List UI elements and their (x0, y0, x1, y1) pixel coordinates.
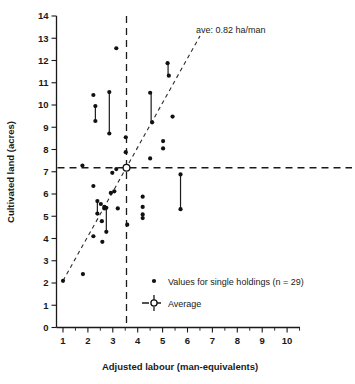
x-tick-label: 8 (235, 335, 240, 346)
average-circle-marker (123, 164, 130, 171)
x-tick-label: 7 (210, 335, 215, 346)
data-point (161, 139, 165, 143)
data-point (178, 172, 182, 176)
x-tick-label: 10 (282, 335, 293, 346)
data-point (99, 202, 103, 206)
x-tick-label: 5 (160, 335, 166, 346)
y-tick-label: 9 (43, 122, 48, 133)
data-point (141, 195, 145, 199)
x-tick-label: 2 (85, 335, 90, 346)
legend-label-values: Values for single holdings (n = 29) (168, 277, 304, 287)
data-point (124, 150, 128, 154)
data-point (81, 272, 85, 276)
x-axis-ticks: 12345678910 (60, 328, 299, 346)
x-tick-label: 9 (260, 335, 265, 346)
data-point (91, 184, 95, 188)
data-point (104, 206, 108, 210)
y-tick-label: 7 (43, 166, 48, 177)
legend-dot-icon (152, 279, 156, 283)
y-tick-label: 12 (38, 55, 49, 66)
y-axis-ticks: 01234567891011121314 (38, 10, 57, 333)
legend-avg-circle-icon (151, 300, 157, 306)
data-point (141, 216, 145, 220)
data-point (170, 114, 174, 118)
x-tick-label: 4 (135, 335, 141, 346)
data-point (167, 74, 171, 78)
x-tick-label: 3 (110, 335, 115, 346)
data-point (125, 223, 129, 227)
x-axis-title: Adjusted labour (man-equivalents) (102, 361, 258, 372)
data-point (93, 119, 97, 123)
data-point (104, 230, 108, 234)
y-tick-label: 0 (43, 322, 48, 333)
data-point (141, 205, 145, 209)
y-tick-label: 4 (43, 233, 49, 244)
data-point (100, 219, 104, 223)
y-tick-label: 1 (43, 300, 49, 311)
plot-canvas: 01234567891011121314 12345678910 ave: 0.… (0, 0, 355, 384)
data-point (112, 189, 116, 193)
data-point (114, 167, 118, 171)
y-tick-label: 5 (43, 211, 49, 222)
average-marker (123, 164, 130, 171)
data-point (100, 240, 104, 244)
data-point (95, 211, 99, 215)
data-point (178, 207, 182, 211)
y-tick-label: 14 (38, 10, 49, 21)
scatter-plot-figure: 01234567891011121314 12345678910 ave: 0.… (0, 0, 355, 384)
y-tick-label: 10 (38, 99, 49, 110)
trend-annotation: ave: 0.82 ha/man (196, 25, 266, 35)
y-tick-label: 2 (43, 277, 48, 288)
y-tick-label: 13 (38, 33, 49, 44)
data-point (124, 135, 128, 139)
y-tick-label: 6 (43, 188, 48, 199)
data-point (107, 90, 111, 94)
data-points (61, 46, 183, 283)
data-point (93, 104, 97, 108)
data-point (165, 61, 169, 65)
legend-label-average: Average (168, 299, 201, 309)
x-tick-label: 6 (185, 335, 190, 346)
data-point (91, 93, 95, 97)
average-trend-line (63, 36, 200, 281)
data-point (110, 171, 114, 175)
y-tick-label: 3 (43, 255, 48, 266)
y-tick-label: 8 (43, 144, 48, 155)
y-tick-label: 11 (38, 77, 49, 88)
data-point (114, 46, 118, 50)
data-point (148, 91, 152, 95)
legend: Values for single holdings (n = 29) Aver… (142, 277, 304, 312)
data-point (61, 279, 65, 283)
data-point (91, 234, 95, 238)
data-point (116, 206, 120, 210)
data-point (150, 120, 154, 124)
data-point (161, 146, 165, 150)
x-tick-label: 1 (60, 335, 66, 346)
y-axis-title: Cultivated land (acres) (5, 121, 16, 223)
trend-line (63, 36, 200, 281)
data-point (95, 199, 99, 203)
data-point (148, 156, 152, 160)
data-point (80, 163, 84, 167)
data-point (107, 131, 111, 135)
